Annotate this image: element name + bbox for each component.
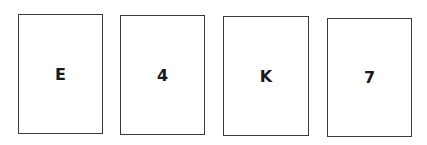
card-e: E	[18, 14, 103, 134]
card-label: 7	[364, 68, 375, 87]
card-7: 7	[327, 18, 412, 137]
card-label: 4	[157, 66, 168, 85]
card-label: K	[260, 67, 272, 86]
card-label: E	[55, 65, 66, 84]
card-k: K	[223, 16, 309, 136]
card-4: 4	[120, 15, 205, 135]
